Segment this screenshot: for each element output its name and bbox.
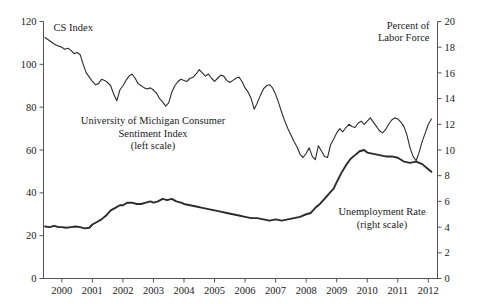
right-axis-tick-label: 10 [445, 145, 456, 156]
x-axis-tick-label: 2003 [143, 285, 164, 296]
right-axis-tick-label: 2 [445, 247, 450, 258]
left-axis-tick-label: 0 [31, 273, 36, 284]
x-axis-tick-label: 2008 [296, 285, 317, 296]
x-axis-tick-label: 2005 [204, 285, 225, 296]
right-axis-tick-label: 14 [445, 93, 456, 104]
left-axis-tick-label: 120 [21, 16, 37, 27]
right-axis-tick-label: 8 [445, 170, 450, 181]
right-axis-tick-label: 18 [445, 42, 456, 53]
x-axis-tick-label: 2010 [357, 285, 378, 296]
series-lines [45, 38, 431, 229]
cs-index-annotation-line3: (left scale) [131, 140, 176, 152]
right-axis-title-line1: Percent of [387, 20, 430, 31]
cs-index-annotation-line2: Sentiment Index [118, 128, 188, 139]
right-axis-tick-label: 6 [445, 196, 450, 207]
x-axis: 2000200120022003200420052006200720082009… [44, 279, 439, 296]
left-axis: 020406080100120 [21, 16, 44, 284]
x-axis-tick-label: 2011 [387, 285, 408, 296]
x-axis-tick-label: 2002 [112, 285, 133, 296]
unemployment-annotation-line2: (right scale) [357, 219, 408, 231]
x-axis-tick-label: 2007 [265, 285, 286, 296]
chart-labels: CS IndexPercent ofLabor ForceUniversity … [54, 20, 431, 231]
cs-index-series-line [45, 38, 431, 161]
x-axis-tick-label: 2001 [82, 285, 103, 296]
left-axis-tick-label: 100 [21, 59, 37, 70]
left-axis-tick-label: 60 [26, 145, 37, 156]
x-axis-tick-label: 2009 [326, 285, 347, 296]
unemployment-annotation-line1: Unemployment Rate [338, 206, 426, 217]
left-axis-tick-label: 80 [26, 102, 37, 113]
right-axis-tick-label: 0 [445, 273, 450, 284]
x-axis-tick-label: 2012 [418, 285, 439, 296]
left-axis-tick-label: 40 [26, 187, 37, 198]
cs-index-annotation-line1: University of Michigan Consumer [81, 115, 226, 126]
right-axis-tick-label: 12 [445, 119, 456, 130]
x-axis-tick-label: 2004 [173, 285, 195, 296]
right-axis-title-line2: Labor Force [378, 32, 430, 43]
right-axis-tick-label: 20 [445, 16, 456, 27]
x-axis-tick-label: 2000 [51, 285, 72, 296]
x-axis-tick-label: 2006 [235, 285, 256, 296]
left-axis-title: CS Index [54, 22, 94, 33]
right-axis-tick-label: 16 [445, 68, 456, 79]
right-axis: 02468101214161820 [438, 16, 456, 284]
chart-container: 020406080100120 02468101214161820 200020… [0, 0, 482, 304]
economic-indicators-line-chart: 020406080100120 02468101214161820 200020… [0, 0, 482, 304]
right-axis-tick-label: 4 [445, 222, 451, 233]
left-axis-tick-label: 20 [26, 230, 37, 241]
